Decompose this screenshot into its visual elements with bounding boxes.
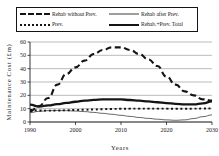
chart-svg: 0102030405060 19902000201020202030 Years… <box>0 34 219 156</box>
legend-item-rehab-plus-prev-total: Rehab.+Prev. Total <box>107 21 196 28</box>
gridlines <box>30 42 212 122</box>
y-axis-title: Maintenance Cost (£m) <box>5 44 13 121</box>
legend-label-rehab-without-prev: Rehab without Prev. <box>52 11 97 18</box>
series-line <box>30 47 212 111</box>
legend-swatch-thin-solid-icon <box>109 11 139 18</box>
x-tick-label: 2010 <box>115 127 127 133</box>
x-tick-label: 2030 <box>206 127 218 133</box>
series-line <box>30 111 212 121</box>
legend-label-rehab-after-prev: Rehab after Prev. <box>141 11 179 18</box>
plot-area: 0102030405060 19902000201020202030 Years… <box>0 34 219 156</box>
legend-label-prev: Prev. <box>52 21 63 28</box>
chart-figure: Rehab without Prev. Rehab after Prev. Pr… <box>0 0 219 156</box>
x-tick-label: 2000 <box>70 127 82 133</box>
x-tick-labels: 19902000201020202030 <box>24 127 218 133</box>
x-tick-label: 1990 <box>24 127 36 133</box>
y-tick-label: 30 <box>20 79 26 85</box>
legend-item-rehab-after-prev: Rehab after Prev. <box>107 11 196 18</box>
y-tick-label: 20 <box>20 92 26 98</box>
y-tick-label: 60 <box>20 39 26 45</box>
chart-legend: Rehab without Prev. Rehab after Prev. Pr… <box>16 7 198 32</box>
y-tick-labels: 0102030405060 <box>20 39 26 125</box>
x-tick-label: 2020 <box>161 127 173 133</box>
y-tick-label: 50 <box>20 52 26 58</box>
legend-swatch-square-dot-icon <box>20 21 50 28</box>
legend-swatch-thick-solid-icon <box>109 21 139 28</box>
y-tick-label: 0 <box>23 119 26 125</box>
y-tick-label: 10 <box>20 106 26 112</box>
series-line <box>30 99 212 106</box>
legend-item-rehab-without-prev: Rehab without Prev. <box>18 11 107 18</box>
legend-swatch-long-dash-icon <box>20 11 50 18</box>
axes <box>28 42 213 125</box>
x-axis-title: Years <box>111 144 129 151</box>
legend-item-prev: Prev. <box>18 21 107 28</box>
legend-label-rehab-plus-prev-total: Rehab.+Prev. Total <box>141 21 183 28</box>
y-tick-label: 40 <box>20 66 26 72</box>
data-series <box>30 47 212 120</box>
